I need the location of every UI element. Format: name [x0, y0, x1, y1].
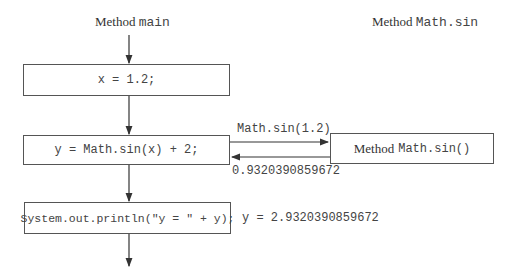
sin-header-name: Math.sin	[416, 15, 478, 30]
compute-y-code: y = Math.sin(x) + 2;	[54, 143, 198, 157]
return-label: 0.9320390859672	[232, 164, 340, 178]
print-code: System.out.println("y = " + y);	[21, 212, 235, 225]
sin-method-header: Method Math.sin	[372, 14, 478, 30]
call-label: Math.sin(1.2)	[237, 122, 331, 136]
assign-x-code: x = 1.2;	[98, 73, 156, 87]
main-method-header: Method main	[95, 14, 170, 30]
print-box: System.out.println("y = " + y);	[24, 202, 231, 234]
main-header-prefix: Method	[95, 14, 135, 29]
main-header-name: main	[139, 15, 170, 30]
output-label: y = 2.9320390859672	[242, 211, 379, 225]
sin-box-prefix: Method	[354, 141, 394, 157]
compute-y-box: y = Math.sin(x) + 2;	[23, 135, 230, 165]
assign-x-box: x = 1.2;	[23, 64, 230, 96]
sin-method-box: Method Math.sin()	[330, 133, 494, 164]
sin-box-name: Math.sin()	[398, 142, 470, 156]
sin-header-prefix: Method	[372, 14, 412, 29]
